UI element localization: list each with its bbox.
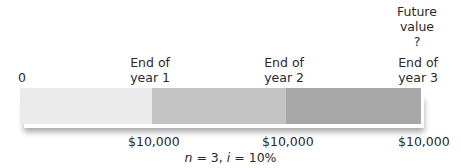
period-label-2-line2: year 2 xyxy=(244,70,304,85)
future-value-line2: value xyxy=(388,19,446,34)
segment-year-2 xyxy=(152,88,286,124)
amount-year-2: $10,000 xyxy=(262,134,314,149)
amount-year-1: $10,000 xyxy=(128,134,180,149)
future-value-line3: ? xyxy=(388,34,446,49)
period-label-1: End of year 1 xyxy=(110,55,170,85)
note-eq1: = 3, xyxy=(192,150,226,165)
period-label-1-line1: End of xyxy=(110,55,170,70)
segment-year-1 xyxy=(20,88,152,124)
period-label-2: End of year 2 xyxy=(244,55,304,85)
parameters-note: n = 3, i = 10% xyxy=(0,150,461,165)
period-label-3: End of year 3 xyxy=(378,55,438,85)
period-label-1-line2: year 1 xyxy=(110,70,170,85)
segment-year-3 xyxy=(286,88,421,124)
note-eq2: = 10% xyxy=(230,150,276,165)
amount-year-3: $10,000 xyxy=(398,134,450,149)
start-label: 0 xyxy=(18,70,26,85)
future-value-line1: Future xyxy=(388,4,446,19)
period-label-3-line2: year 3 xyxy=(378,70,438,85)
future-value-label: Future value ? xyxy=(388,4,446,49)
period-label-2-line1: End of xyxy=(244,55,304,70)
period-label-3-line1: End of xyxy=(378,55,438,70)
